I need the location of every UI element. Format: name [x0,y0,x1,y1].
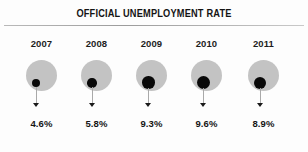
arrow-down-icon [257,103,263,107]
arrow-down-icon [200,103,206,107]
value-label: 4.6% [14,118,69,129]
arrow-down-icon [145,103,151,107]
pointer-stem [92,87,93,104]
unemployment-rate-infographic: OFFICIAL UNEMPLOYMENT RATE 2007 4.6% 200… [0,0,308,152]
year-label: 2007 [14,38,69,49]
value-dot [142,76,155,89]
year-column-2007: 2007 4.6% [14,38,69,138]
year-column-2011: 2011 8.9% [236,38,291,138]
year-label: 2009 [124,38,179,49]
pointer-stem [36,87,37,104]
bubble-group [236,58,291,94]
year-column-2009: 2009 9.3% [124,38,179,138]
year-label: 2010 [179,38,234,49]
value-label: 9.6% [179,118,234,129]
bubble-group [124,58,179,94]
value-label: 9.3% [124,118,179,129]
pointer-stem [260,88,261,104]
gray-circle [81,60,112,91]
pointer-stem [203,88,204,104]
year-columns: 2007 4.6% 2008 5.8% 2009 [0,0,308,152]
gray-circle [26,60,57,91]
arrow-down-icon [33,103,39,107]
year-column-2008: 2008 5.8% [69,38,124,138]
value-label: 8.9% [236,118,291,129]
value-label: 5.8% [69,118,124,129]
arrow-down-icon [89,103,95,107]
bubble-group [179,58,234,94]
year-label: 2008 [69,38,124,49]
bubble-group [14,58,69,94]
bubble-group [69,58,124,94]
pointer-stem [148,88,149,104]
year-column-2010: 2010 9.6% [179,38,234,138]
value-dot [32,79,40,87]
year-label: 2011 [236,38,291,49]
